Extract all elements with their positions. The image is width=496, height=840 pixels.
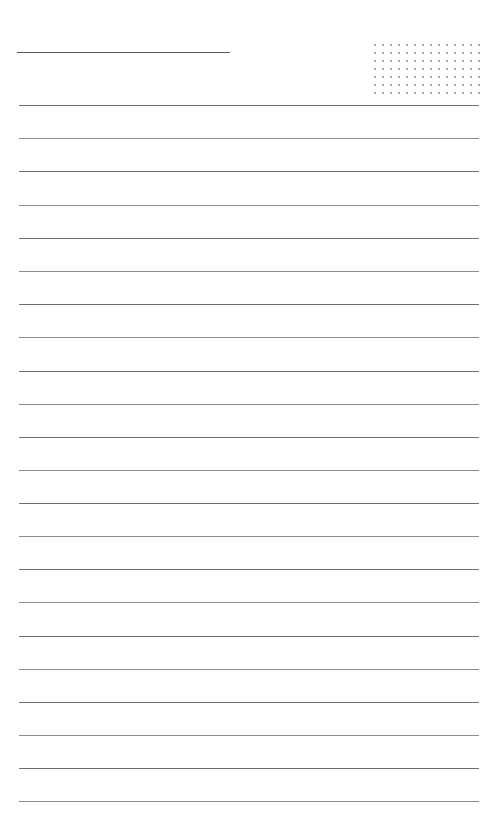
grid-dot (430, 76, 432, 78)
grid-dot (446, 52, 448, 54)
grid-dot (454, 84, 456, 86)
grid-dot (406, 60, 408, 62)
grid-dot (462, 76, 464, 78)
ruled-line (19, 304, 479, 305)
grid-dot (438, 60, 440, 62)
grid-dot (390, 44, 392, 46)
grid-dot (382, 52, 384, 54)
grid-dot (454, 52, 456, 54)
grid-dot (374, 76, 376, 78)
grid-dot (470, 84, 472, 86)
grid-dot (382, 44, 384, 46)
grid-dot (470, 52, 472, 54)
grid-dot (430, 60, 432, 62)
grid-dot (374, 68, 376, 70)
grid-dot (478, 60, 480, 62)
grid-dot (430, 52, 432, 54)
grid-dot (374, 44, 376, 46)
grid-dot (454, 44, 456, 46)
grid-dot (430, 92, 432, 94)
grid-dot (446, 84, 448, 86)
grid-dot (422, 92, 424, 94)
grid-dot (470, 60, 472, 62)
ruled-line (19, 205, 479, 206)
grid-dot (470, 44, 472, 46)
grid-dot (446, 44, 448, 46)
ruled-line (19, 437, 479, 438)
grid-dot (414, 68, 416, 70)
grid-dot (398, 92, 400, 94)
ruled-line (19, 735, 479, 736)
grid-dot (478, 84, 480, 86)
grid-dot (422, 76, 424, 78)
grid-dot (422, 68, 424, 70)
ruled-line (19, 669, 479, 670)
grid-dot (406, 44, 408, 46)
grid-dot (398, 84, 400, 86)
ruled-line (19, 371, 479, 372)
grid-dot (414, 92, 416, 94)
grid-dot (438, 84, 440, 86)
ruled-line (19, 636, 479, 637)
grid-dot (374, 60, 376, 62)
grid-dot (414, 52, 416, 54)
grid-dot (406, 76, 408, 78)
grid-dot (374, 52, 376, 54)
grid-dot (438, 52, 440, 54)
grid-dot (390, 84, 392, 86)
grid-dot (438, 44, 440, 46)
grid-dot (478, 52, 480, 54)
grid-dot (398, 52, 400, 54)
ruled-line (19, 105, 479, 106)
grid-dot (422, 84, 424, 86)
ruled-line (19, 138, 479, 139)
grid-dot (414, 60, 416, 62)
grid-dot (454, 60, 456, 62)
grid-dot (478, 68, 480, 70)
ruled-line (19, 171, 479, 172)
grid-dot (406, 68, 408, 70)
grid-dot (382, 60, 384, 62)
grid-dot (382, 84, 384, 86)
grid-dot (390, 68, 392, 70)
ruled-line (19, 702, 479, 703)
grid-dot (454, 92, 456, 94)
ruled-line (19, 801, 479, 802)
ruled-line (19, 470, 479, 471)
dot-grid-decoration (371, 41, 483, 97)
grid-dot (390, 76, 392, 78)
ruled-line (19, 337, 479, 338)
grid-dot (422, 52, 424, 54)
grid-dot (374, 84, 376, 86)
grid-dot (462, 60, 464, 62)
grid-dot (390, 92, 392, 94)
grid-dot (478, 92, 480, 94)
grid-dot (470, 68, 472, 70)
grid-dot (454, 68, 456, 70)
grid-dot (462, 92, 464, 94)
title-underline (17, 52, 230, 53)
grid-dot (446, 92, 448, 94)
grid-dot (462, 52, 464, 54)
grid-dot (438, 68, 440, 70)
grid-dot (446, 68, 448, 70)
grid-dot (430, 68, 432, 70)
grid-dot (430, 44, 432, 46)
grid-dot (398, 44, 400, 46)
grid-dot (414, 84, 416, 86)
grid-dot (398, 60, 400, 62)
ruled-line (19, 602, 479, 603)
grid-dot (478, 76, 480, 78)
ruled-line (19, 536, 479, 537)
grid-dot (462, 44, 464, 46)
grid-dot (470, 92, 472, 94)
grid-dot (462, 84, 464, 86)
ruled-line (19, 404, 479, 405)
grid-dot (382, 92, 384, 94)
grid-dot (414, 76, 416, 78)
ruled-line (19, 768, 479, 769)
grid-dot (414, 44, 416, 46)
grid-dot (446, 60, 448, 62)
grid-dot (406, 84, 408, 86)
grid-dot (438, 76, 440, 78)
